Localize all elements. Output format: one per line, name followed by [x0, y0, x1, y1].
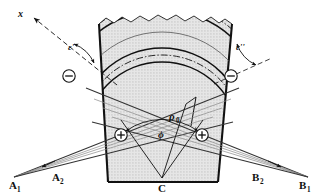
label-epsilon-right: ε''	[236, 42, 245, 52]
label-b1-subscript: 1	[307, 186, 311, 194]
label-a1-letter: A	[9, 179, 17, 191]
sign-plus-left	[115, 129, 127, 141]
label-rho-symbol: ρ	[168, 110, 175, 122]
label-a1: A 1	[9, 179, 21, 194]
label-b2-letter: B	[252, 171, 260, 183]
label-x-axis: x	[17, 8, 23, 19]
sign-minus-right	[225, 70, 237, 82]
label-a2-subscript: 2	[60, 178, 64, 186]
label-a2-letter: A	[52, 171, 60, 183]
sign-plus-right	[196, 129, 208, 141]
angle-arc-left	[74, 44, 94, 63]
label-phi: ϕ	[158, 129, 164, 140]
label-a1-subscript: 1	[17, 186, 21, 194]
label-b1: B 1	[299, 179, 311, 194]
label-b1-letter: B	[299, 179, 307, 191]
figure-container: x ε' ε'' ρ 0 ϕ C A 1 A 2 B 1 B 2	[0, 0, 323, 194]
label-center-c: C	[158, 182, 166, 194]
label-epsilon-left: ε'	[68, 42, 75, 52]
sign-minus-left	[63, 70, 75, 82]
label-b2-subscript: 2	[260, 178, 264, 186]
label-a2: A 2	[52, 171, 64, 186]
ray-geometry-diagram: x ε' ε'' ρ 0 ϕ C A 1 A 2 B 1 B 2	[0, 0, 323, 194]
label-rho-subscript: 0	[176, 117, 180, 125]
label-b2: B 2	[252, 171, 264, 186]
